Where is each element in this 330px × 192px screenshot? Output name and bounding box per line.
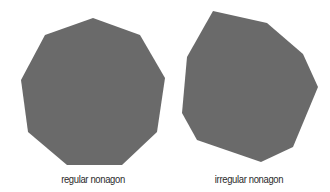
irregular-nonagon-label: irregular nonagon (209, 172, 288, 186)
irregular-nonagon-shape (182, 11, 318, 162)
regular-nonagon-label: regular nonagon (56, 172, 130, 186)
nonagon-diagram (0, 0, 330, 192)
regular-nonagon-shape (21, 18, 165, 165)
